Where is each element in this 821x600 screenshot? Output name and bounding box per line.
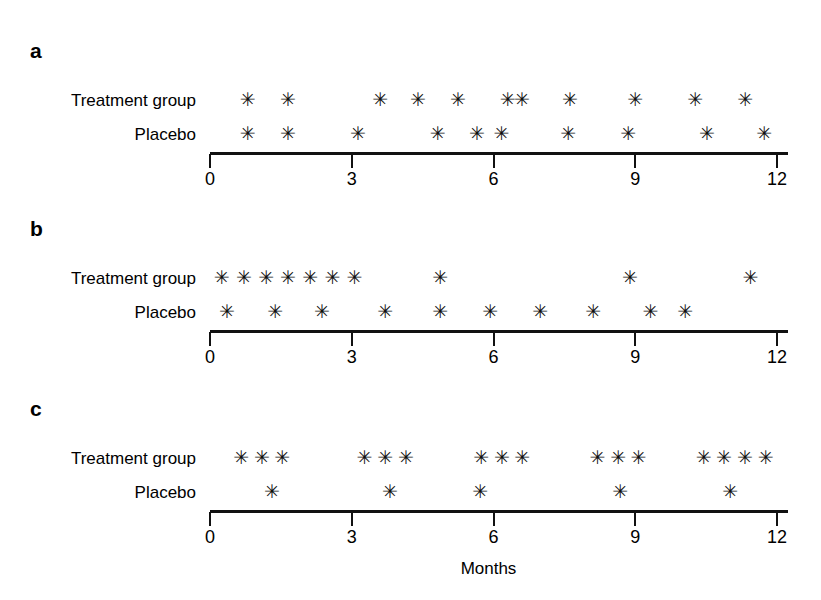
event-marker: ✳	[302, 266, 318, 288]
event-marker: ✳	[560, 122, 576, 144]
event-marker: ✳	[314, 300, 330, 322]
event-marker: ✳	[737, 88, 753, 110]
axis-tick	[209, 154, 211, 168]
axis-tick	[776, 332, 778, 346]
event-marker: ✳	[620, 122, 636, 144]
event-marker: ✳	[372, 88, 388, 110]
event-marker: ✳	[532, 300, 548, 322]
event-marker: ✳	[430, 122, 446, 144]
event-marker: ✳	[274, 446, 290, 468]
event-marker: ✳	[642, 300, 658, 322]
marker-track-placebo: ✳✳✳✳✳✳✳✳✳✳	[0, 300, 821, 322]
event-marker: ✳	[398, 446, 414, 468]
axis-tick-label: 0	[205, 528, 215, 546]
axis-tick-label: 12	[767, 170, 787, 188]
panel-a: aTreatment group✳✳✳✳✳✳✳✳✳✳✳Placebo✳✳✳✳✳✳…	[0, 40, 821, 190]
axis-tick	[209, 332, 211, 346]
axis-tick-label: 0	[205, 348, 215, 366]
event-marker: ✳	[610, 446, 626, 468]
event-marker: ✳	[280, 88, 296, 110]
axis-tick	[776, 512, 778, 526]
event-marker: ✳	[677, 300, 693, 322]
event-marker: ✳	[758, 446, 774, 468]
event-marker: ✳	[696, 446, 712, 468]
marker-track-placebo: ✳✳✳✳✳✳✳✳✳✳	[0, 122, 821, 144]
event-marker: ✳	[722, 480, 738, 502]
marker-track-placebo: ✳✳✳✳✳	[0, 480, 821, 502]
axis-tick	[493, 154, 495, 168]
event-marker: ✳	[347, 266, 363, 288]
axis-tick	[493, 332, 495, 346]
figure-panel-container: aTreatment group✳✳✳✳✳✳✳✳✳✳✳Placebo✳✳✳✳✳✳…	[0, 0, 821, 600]
event-marker: ✳	[236, 266, 252, 288]
axis-tick	[351, 332, 353, 346]
event-marker: ✳	[756, 122, 772, 144]
x-axis-c: 036912	[0, 510, 821, 556]
axis-tick-label: 9	[630, 348, 640, 366]
event-marker: ✳	[500, 88, 516, 110]
event-marker: ✳	[469, 122, 485, 144]
event-marker: ✳	[699, 122, 715, 144]
axis-tick	[209, 512, 211, 526]
event-marker: ✳	[622, 266, 638, 288]
event-marker: ✳	[494, 122, 510, 144]
axis-line	[210, 330, 788, 333]
marker-track-treatment-group: ✳✳✳✳✳✳✳✳✳✳✳	[0, 88, 821, 110]
axis-tick	[776, 154, 778, 168]
axis-tick-label: 12	[767, 528, 787, 546]
event-marker: ✳	[324, 266, 340, 288]
event-marker: ✳	[514, 446, 530, 468]
event-marker: ✳	[494, 446, 510, 468]
axis-tick	[634, 512, 636, 526]
axis-tick-label: 6	[488, 528, 498, 546]
axis-tick-label: 0	[205, 170, 215, 188]
panel-label-a: a	[30, 40, 42, 61]
axis-tick-label: 6	[488, 348, 498, 366]
x-axis-a: 036912	[0, 152, 821, 198]
event-marker: ✳	[214, 266, 230, 288]
event-marker: ✳	[264, 480, 280, 502]
x-axis-title: Months	[0, 560, 821, 577]
marker-track-treatment-group: ✳✳✳✳✳✳✳✳✳✳✳✳✳✳✳✳	[0, 446, 821, 468]
axis-tick	[351, 512, 353, 526]
event-marker: ✳	[631, 446, 647, 468]
panel-label-c: c	[30, 398, 42, 419]
event-marker: ✳	[258, 266, 274, 288]
event-marker: ✳	[514, 88, 530, 110]
event-marker: ✳	[473, 446, 489, 468]
event-marker: ✳	[350, 122, 366, 144]
panel-b: bTreatment group✳✳✳✳✳✳✳✳✳✳Placebo✳✳✳✳✳✳✳…	[0, 218, 821, 368]
event-marker: ✳	[377, 300, 393, 322]
event-marker: ✳	[377, 446, 393, 468]
event-marker: ✳	[687, 88, 703, 110]
axis-line	[210, 152, 788, 155]
panel-c: cTreatment group✳✳✳✳✳✳✳✳✳✳✳✳✳✳✳✳Placebo✳…	[0, 398, 821, 548]
event-marker: ✳	[612, 480, 628, 502]
event-marker: ✳	[585, 300, 601, 322]
event-marker: ✳	[233, 446, 249, 468]
axis-tick-label: 3	[347, 528, 357, 546]
axis-tick-label: 9	[630, 170, 640, 188]
event-marker: ✳	[716, 446, 732, 468]
event-marker: ✳	[743, 266, 759, 288]
axis-tick-label: 3	[347, 348, 357, 366]
event-marker: ✳	[254, 446, 270, 468]
axis-tick	[493, 512, 495, 526]
axis-line	[210, 510, 788, 513]
event-marker: ✳	[219, 300, 235, 322]
event-marker: ✳	[382, 480, 398, 502]
axis-tick-label: 9	[630, 528, 640, 546]
event-marker: ✳	[627, 88, 643, 110]
axis-tick-label: 3	[347, 170, 357, 188]
axis-tick	[351, 154, 353, 168]
axis-tick-label: 12	[767, 348, 787, 366]
event-marker: ✳	[482, 300, 498, 322]
event-marker: ✳	[472, 480, 488, 502]
event-marker: ✳	[737, 446, 753, 468]
event-marker: ✳	[240, 122, 256, 144]
axis-tick-label: 6	[488, 170, 498, 188]
event-marker: ✳	[562, 88, 578, 110]
event-marker: ✳	[357, 446, 373, 468]
event-marker: ✳	[280, 122, 296, 144]
event-marker: ✳	[410, 88, 426, 110]
